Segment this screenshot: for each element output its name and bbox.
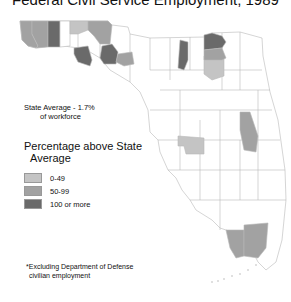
legend-swatch-light [24, 173, 42, 183]
footnote-line2: civilian employment [26, 272, 133, 281]
legend-item-50-99: 50-99 [24, 186, 69, 196]
county-walton [60, 21, 70, 47]
state-average-line2: of workforce [24, 112, 95, 121]
legend-title: Percentage above State Average [24, 140, 142, 164]
footnote-line1: *Excluding Department of Defense [26, 263, 133, 272]
legend-label: 0-49 [50, 174, 65, 183]
state-average-note: State Average - 1.7% of workforce [24, 103, 95, 121]
legend-item-0-49: 0-49 [24, 173, 65, 183]
legend-title-line1: Percentage above State [24, 140, 142, 152]
state-average-line1: State Average - 1.7% [24, 103, 95, 112]
legend-swatch-dark [24, 199, 42, 209]
county-collier-monroe [226, 230, 244, 258]
legend-title-line2: Average [24, 152, 142, 164]
county-okaloosa [48, 21, 60, 47]
legend-label: 50-99 [50, 187, 69, 196]
footnote: *Excluding Department of Defense civilia… [26, 263, 133, 280]
legend-item-100-plus: 100 or more [24, 199, 90, 209]
legend-swatch-medium [24, 186, 42, 196]
legend-label: 100 or more [50, 200, 90, 209]
county-clay [204, 48, 226, 60]
